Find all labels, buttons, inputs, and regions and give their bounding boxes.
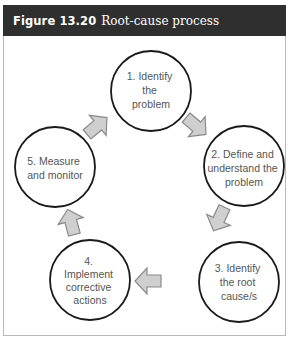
arrow-3-to-4-icon xyxy=(135,268,161,294)
node-3-identify-root-cause: 3. Identify the root cause/s xyxy=(199,242,279,322)
node-2-define-understand: 2. Define and understand the problem xyxy=(204,126,284,206)
node-3-label: 3. Identify the root cause/s xyxy=(215,262,263,302)
node-5-measure-monitor: 5. Measure and monitor xyxy=(15,127,95,207)
arrow-2-to-3-icon xyxy=(202,202,237,237)
node-4-implement-corrective-actions: 4. Implement corrective actions xyxy=(50,240,130,320)
node-1-identify-problem: 1. Identify the problem xyxy=(111,51,191,131)
root-cause-cycle-diagram: 1. Identify the problem 2. Define and un… xyxy=(0,0,297,340)
arrow-4-to-5-icon xyxy=(55,206,87,238)
node-circle xyxy=(50,240,130,320)
node-circle xyxy=(15,127,95,207)
